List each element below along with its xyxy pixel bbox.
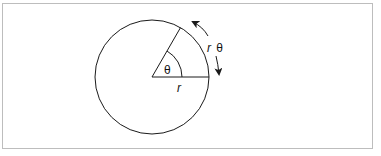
arc-length-theta: θ [216, 41, 223, 55]
arc-length-diagram: θ r r θ [0, 0, 381, 156]
angle-label: θ [164, 63, 171, 77]
figure-border [3, 4, 373, 149]
arc-length-r: r [207, 41, 212, 55]
